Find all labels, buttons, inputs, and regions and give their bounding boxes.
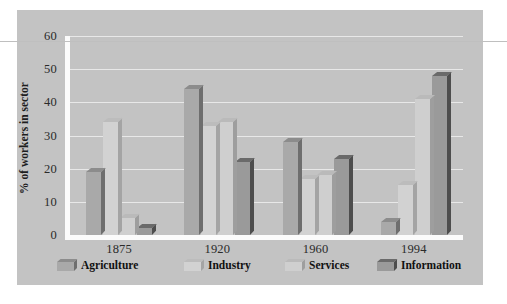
bar-side [250, 158, 254, 235]
bar-side [332, 171, 336, 235]
bar-side [447, 72, 451, 235]
bar-side [413, 181, 417, 235]
bar-side [233, 118, 237, 235]
bar-side [101, 168, 105, 235]
legend-label: Services [309, 259, 349, 271]
x-axis-tick-label: 1920 [204, 242, 230, 257]
y-axis-tick-label: 50 [44, 62, 57, 77]
bar-side [315, 174, 319, 235]
chart-figure: % of workers in sector 0102030405060 187… [17, 10, 483, 285]
legend-item-information[interactable]: Information [377, 256, 461, 274]
chart-legend: AgricultureIndustryServicesInformation [57, 256, 477, 276]
bar-agriculture-1960 [283, 142, 298, 235]
bar-face [86, 172, 101, 235]
y-axis-tick-label: 30 [44, 128, 57, 143]
bar-side [216, 121, 220, 235]
bar-side [199, 85, 203, 235]
bar-face [283, 142, 298, 235]
legend-item-industry[interactable]: Industry [184, 256, 251, 274]
y-axis-tick-labels: 0102030405060 [17, 36, 61, 240]
x-axis-tick-label: 1994 [401, 242, 427, 257]
bar-face [415, 99, 430, 235]
y-axis-tick-label: 10 [44, 194, 57, 209]
plot-area [65, 36, 463, 240]
bar-face [398, 185, 413, 235]
bar-agriculture-1920 [184, 89, 199, 235]
bar-group [168, 36, 266, 235]
bar-agriculture-1875 [86, 172, 101, 235]
bar-services-1994 [415, 99, 430, 235]
bar-industry-1920 [201, 126, 216, 235]
legend-swatch-icon [377, 262, 394, 271]
legend-label: Agriculture [81, 259, 138, 271]
legend-swatch-icon [184, 262, 201, 271]
legend-label: Information [401, 259, 461, 271]
x-axis-line [65, 235, 463, 240]
y-axis-tick-label: 20 [44, 161, 57, 176]
legend-swatch-icon [57, 262, 74, 271]
bar-face [218, 122, 233, 235]
legend-item-agriculture[interactable]: Agriculture [57, 256, 138, 274]
x-axis-tick-label: 1875 [106, 242, 132, 257]
bar-side [430, 95, 434, 235]
bar-face [235, 162, 250, 235]
bar-face [381, 222, 396, 235]
legend-label: Industry [208, 259, 251, 271]
bar-face [184, 89, 199, 235]
bar-face [432, 76, 447, 235]
legend-item-services[interactable]: Services [285, 256, 349, 274]
bar-information-1920 [235, 162, 250, 235]
bar-agriculture-1994 [381, 222, 396, 235]
y-axis-tick-label: 0 [51, 228, 57, 243]
x-axis-tick-label: 1960 [303, 242, 329, 257]
bar-face [120, 218, 135, 235]
bar-side [349, 155, 353, 235]
bar-information-1875 [137, 228, 152, 235]
bar-face [201, 126, 216, 235]
bar-face [103, 122, 118, 235]
bar-services-1920 [218, 122, 233, 235]
bar-group [365, 36, 463, 235]
bar-side [118, 118, 122, 235]
bar-industry-1875 [103, 122, 118, 235]
bar-group [70, 36, 168, 235]
bar-groups [70, 36, 463, 235]
bar-industry-1994 [398, 185, 413, 235]
y-axis-tick-label: 40 [44, 95, 57, 110]
legend-swatch-icon [285, 262, 302, 271]
bar-face [137, 228, 152, 235]
bar-side [298, 138, 302, 235]
bar-group [267, 36, 365, 235]
page-horizontal-rule [0, 41, 507, 42]
bar-services-1875 [120, 218, 135, 235]
bar-information-1994 [432, 76, 447, 235]
